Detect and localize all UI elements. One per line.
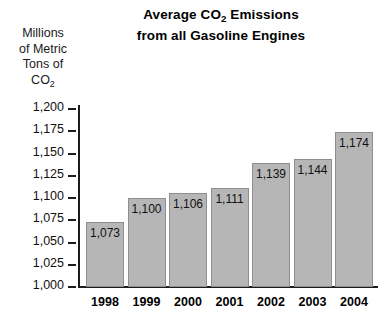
bar-2001: 1,111 (211, 188, 249, 287)
x-tick-label-1999: 1999 (125, 295, 169, 309)
bar-1999: 1,100 (128, 198, 166, 287)
y-axis-label-line-4: CO2 (10, 73, 76, 92)
y-tick-mark (68, 153, 76, 155)
y-tick-label: 1,025 (4, 256, 64, 270)
y-tick-label: 1,100 (4, 189, 64, 203)
y-tick-mark (68, 286, 76, 288)
bar-2000: 1,106 (169, 193, 207, 287)
y-tick-mark (68, 264, 76, 266)
y-tick-label: 1,050 (4, 234, 64, 248)
y-tick-label: 1,000 (4, 278, 64, 292)
x-tick-label-2004: 2004 (332, 295, 376, 309)
x-tick-label-2000: 2000 (166, 295, 210, 309)
chart-title-line-1: Average CO2 Emissions (108, 6, 334, 27)
bar-2003: 1,144 (294, 159, 332, 287)
bar-2002: 1,139 (252, 163, 290, 287)
y-tick-mark (68, 130, 76, 132)
y-tick-mark (68, 219, 76, 221)
y-tick-label: 1,200 (4, 100, 64, 114)
bar-value-label: 1,073 (87, 226, 123, 240)
chart-title: Average CO2 Emissions from all Gasoline … (108, 6, 334, 44)
y-tick-mark (68, 108, 76, 110)
y-axis-label-line-3: Tons of (10, 57, 76, 73)
bar-value-label: 1,111 (212, 192, 248, 206)
co2-subscript: 2 (221, 13, 227, 24)
y-tick-label: 1,125 (4, 167, 64, 181)
co2-subscript: 2 (50, 78, 55, 88)
bar-value-label: 1,174 (336, 136, 372, 150)
bar-1998: 1,073 (86, 222, 124, 287)
x-tick-label-1998: 1998 (83, 295, 127, 309)
bar-chart-figure: Average CO2 Emissions from all Gasoline … (0, 0, 389, 324)
y-tick-mark (68, 242, 76, 244)
y-tick-mark (68, 197, 76, 199)
y-axis-label-line-1: Millions (10, 26, 76, 42)
bar-value-label: 1,139 (253, 167, 289, 181)
y-tick-mark (68, 175, 76, 177)
bar-value-label: 1,100 (129, 202, 165, 216)
y-axis-line (78, 105, 80, 288)
x-tick-label-2001: 2001 (208, 295, 252, 309)
x-tick-label-2003: 2003 (291, 295, 335, 309)
y-tick-label: 1,075 (4, 211, 64, 225)
y-tick-label: 1,150 (4, 145, 64, 159)
chart-title-line-2: from all Gasoline Engines (108, 27, 334, 44)
bar-value-label: 1,144 (295, 163, 331, 177)
y-tick-label: 1,175 (4, 122, 64, 136)
y-axis-label-line-2: of Metric (10, 42, 76, 58)
y-axis-label: Millions of Metric Tons of CO2 (10, 26, 76, 92)
x-tick-label-2002: 2002 (249, 295, 293, 309)
bar-value-label: 1,106 (170, 197, 206, 211)
bar-2004: 1,174 (335, 132, 373, 287)
